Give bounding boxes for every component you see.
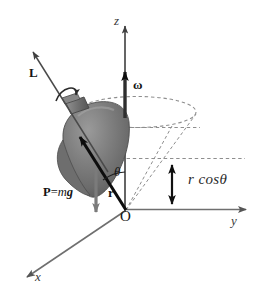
theta-angle-label: θ <box>114 165 120 178</box>
weight-label-p: P <box>43 185 51 199</box>
angular-momentum-label: L <box>29 66 38 79</box>
z-axis-label: z <box>114 14 119 27</box>
y-axis-label: y <box>231 214 237 227</box>
weight-label-g: g <box>67 185 73 199</box>
height-label: r cosθ <box>188 172 227 187</box>
x-axis <box>27 211 125 277</box>
x-axis-label: x <box>35 270 41 283</box>
weight-label: P=mg <box>43 186 73 199</box>
precession-cone <box>126 114 196 210</box>
physics-diagram-figure: z y x O L ω r θ r cosθ P=mg <box>0 0 273 295</box>
angular-velocity-label: ω <box>133 78 143 91</box>
position-vector-label: r <box>108 186 114 199</box>
weight-label-equals: = <box>51 185 58 199</box>
weight-label-m: m <box>58 185 67 199</box>
diagram-canvas <box>0 0 273 295</box>
origin-label: O <box>120 209 131 224</box>
